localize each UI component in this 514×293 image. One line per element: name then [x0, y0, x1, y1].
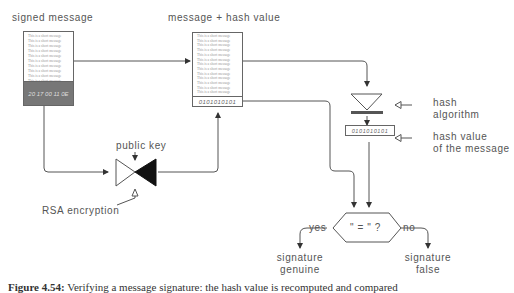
- message-text: This is a short message This is a short …: [193, 33, 242, 95]
- hash-algorithm-triangle: [351, 94, 383, 114]
- figure-caption: Figure 4.54: Verifying a message signatu…: [8, 281, 398, 293]
- hash-algorithm-label-1: hash: [433, 97, 457, 108]
- signature-false-label-2: false: [400, 264, 456, 275]
- rsa-encryption-label: RSA encryption: [42, 205, 119, 216]
- signature-false-label-1: signature: [400, 252, 456, 263]
- figure-number: Figure 4.54:: [8, 281, 65, 293]
- signature-block: 20 17 00 11 0E: [24, 81, 73, 105]
- hash-value-label-2: of the message: [433, 143, 510, 154]
- attached-hash-value: 0101010101: [193, 96, 242, 106]
- public-key-label: public key: [116, 140, 166, 151]
- signed-message-label: signed message: [12, 12, 93, 23]
- figure-caption-text: Verifying a message signature: the hash …: [67, 281, 398, 293]
- message-hash-box: This is a short message This is a short …: [192, 32, 243, 107]
- computed-hash-box: 0101010101: [345, 125, 395, 136]
- message-hash-label: message + hash value: [168, 12, 280, 23]
- hash-value-label-1: hash value: [433, 131, 487, 142]
- signed-message-box: This is a short message This is a short …: [23, 31, 74, 106]
- signature-genuine-label-2: genuine: [272, 264, 328, 275]
- message-line: This is a short message: [193, 90, 242, 95]
- comparison-label: " = " ?: [350, 222, 381, 233]
- no-label: no: [403, 222, 415, 233]
- message-text: This is a short message This is a short …: [24, 32, 73, 84]
- hash-algorithm-label-2: algorithm: [433, 109, 480, 120]
- rsa-bowtie: [116, 159, 156, 186]
- yes-label: yes: [309, 222, 326, 233]
- signature-genuine-label-1: signature: [272, 252, 328, 263]
